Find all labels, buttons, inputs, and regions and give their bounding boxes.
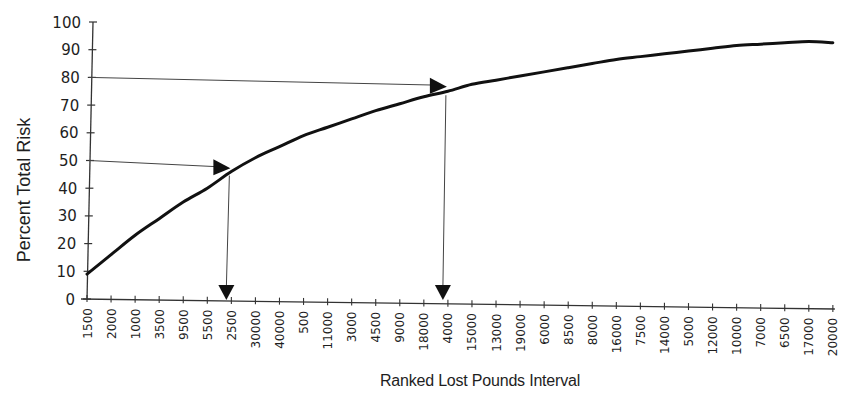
data-line [87, 41, 833, 274]
annotation-arrow-50 [89, 159, 234, 300]
x-axis-line [81, 299, 835, 309]
x-tick-label: 20000 [826, 318, 840, 356]
x-tick-label: 8500 [562, 314, 576, 345]
x-tick-label: 1500 [81, 308, 95, 339]
x-tick-label: 40000 [273, 311, 287, 349]
y-tick-label: 30 [58, 207, 77, 225]
x-tick-label: 7000 [754, 317, 768, 348]
x-tick-label: 4500 [369, 312, 383, 343]
x-tick-label: 11000 [321, 311, 335, 349]
y-tick-label: 80 [61, 69, 80, 87]
y-tick-label: 50 [59, 152, 78, 170]
x-tick-label: 9500 [177, 309, 191, 340]
x-tick-label: 17000 [802, 318, 816, 356]
x-tick-label: 30000 [249, 310, 263, 348]
x-tick-label: 2000 [105, 308, 119, 339]
x-tick-label: 5500 [201, 310, 215, 341]
x-tick-label: 12000 [706, 316, 720, 354]
vertical-arrow-line [443, 95, 446, 287]
x-tick-label: 8000 [586, 315, 600, 346]
x-tick-label: 2500 [225, 310, 239, 341]
x-tick-label: 13000 [490, 314, 504, 352]
x-tick-label: 18000 [417, 313, 431, 351]
y-axis-title-container: Percent Total Risk [0, 0, 40, 403]
x-tick-label: 6500 [778, 317, 792, 348]
x-tick-label: 5000 [682, 316, 696, 347]
vertical-arrow-line [226, 176, 229, 287]
chart-container: 0102030405060708090100 15002000100035009… [0, 0, 847, 403]
y-tick-label: 100 [52, 14, 81, 32]
horizontal-arrow-line [89, 161, 215, 167]
x-tick-label: 3500 [153, 309, 167, 340]
line-chart-plot: 0102030405060708090100 15002000100035009… [0, 0, 847, 403]
x-tick-label: 7500 [634, 315, 648, 346]
y-tick-label: 60 [60, 124, 79, 142]
annotation-arrow-80 [89, 77, 451, 300]
annotation-arrows [89, 77, 451, 300]
x-axis-title: Ranked Lost Pounds Interval [330, 372, 630, 390]
x-tick-label: 19000 [514, 314, 528, 352]
x-tick-label: 3000 [345, 312, 359, 343]
x-tick-label: 15000 [465, 313, 479, 351]
y-tick-label: 90 [61, 41, 80, 59]
y-tick-label: 0 [65, 291, 75, 309]
x-axis: 1500200010003500950055002500300004000050… [81, 295, 841, 356]
y-tick-label: 40 [58, 180, 77, 198]
x-tick-label: 4000 [441, 313, 455, 344]
y-tick-label: 70 [60, 97, 79, 115]
arrowhead-down-icon [435, 285, 451, 300]
x-tick-label: 16000 [610, 315, 624, 353]
x-tick-label: 10000 [730, 317, 744, 355]
horizontal-arrow-line [89, 77, 432, 85]
x-tick-label: 9000 [393, 312, 407, 343]
x-tick-label: 6000 [538, 314, 552, 345]
x-tick-label: 1000 [129, 309, 143, 340]
y-tick-label: 20 [57, 235, 76, 253]
x-tick-label: 500 [297, 311, 311, 334]
x-tick-label: 14000 [658, 316, 672, 354]
arrowhead-down-icon [218, 285, 234, 300]
y-tick-label: 10 [57, 263, 76, 281]
y-axis-title: Percent Total Risk [14, 118, 35, 263]
